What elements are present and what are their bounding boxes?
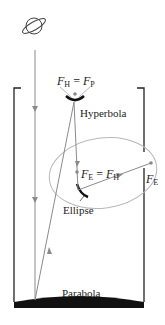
label-fh-fp: FH = FP — [56, 74, 95, 89]
ellipsoidal-mirror — [77, 184, 88, 197]
label-fe-fh: FE = FH — [80, 167, 119, 182]
label-ellipse: Ellipse — [63, 204, 94, 216]
label-parabola: Parabola — [62, 287, 101, 299]
planet-icon — [21, 16, 48, 36]
telescope-tube — [14, 88, 144, 302]
label-hyperbola: Hyperbola — [80, 107, 127, 119]
hyperbolic-mirror — [66, 96, 84, 100]
focus-e — [149, 161, 153, 165]
focus-eh — [75, 170, 79, 174]
ellipse-leader-line — [80, 196, 84, 201]
focus-hp — [73, 92, 77, 96]
telescope-diagram: FH = FP Hyperbola FE = FH FE Ellipse Par… — [0, 0, 165, 325]
